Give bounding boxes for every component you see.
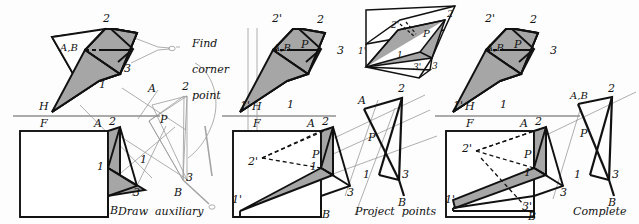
p1-label-H: H — [39, 100, 49, 113]
p3-label-1-front: 1 — [524, 166, 531, 179]
p1-label-1: 1 — [99, 78, 106, 91]
p3-label-3: 3 — [550, 44, 557, 57]
p1-label-A-front: A — [94, 117, 102, 130]
p3-label-2p-front: 2' — [462, 142, 472, 155]
p2-label-3: 3 — [337, 44, 344, 57]
fcp-line-1: Find — [192, 37, 217, 50]
p2-label-A-front: A — [307, 117, 315, 130]
p1-label-2-front: 2 — [109, 115, 116, 128]
caption-draw-auxiliary-view: Draw auxiliary view — [111, 192, 203, 224]
p2-aux-label-2: 2 — [398, 82, 405, 95]
p3-label-B-front: B — [528, 210, 536, 223]
panel-2-front-view — [233, 127, 350, 217]
p3-label-1p: 1' — [453, 99, 463, 112]
p3-label-H: H — [465, 100, 475, 113]
annotation-find-corner-point: Find corner point — [185, 24, 229, 102]
p1-aux-label-A: A — [148, 82, 156, 95]
p2-label-1p-front: 1' — [232, 193, 242, 206]
p3-aux-label-AB: A,B — [570, 90, 588, 101]
p2-label-1: 1 — [287, 98, 294, 111]
p3-label-AB: A,B — [486, 42, 504, 53]
p2-label-H: H — [252, 100, 262, 113]
p3-label-P-front: P — [524, 148, 531, 161]
panel-3-auxiliary-view — [578, 97, 614, 196]
p1-label-1-front: 1 — [97, 160, 104, 173]
p3-label-2p: 2' — [485, 12, 495, 25]
p3-label-A-front: A — [520, 117, 528, 130]
p2-inset-label-P: P — [423, 28, 430, 39]
p2-label-B-front: B — [322, 208, 330, 221]
p1-aux-label-P: P — [160, 113, 167, 126]
figure-canvas: 2 A,B 3 1 H F A 2 1 3 B A 2 P 1 3 B Find… — [0, 0, 639, 224]
p2-inset-label-2: 2 — [447, 8, 453, 19]
p2-label-2-front: 2 — [322, 115, 329, 128]
p2-aux-label-1: 1 — [363, 168, 370, 181]
panel-2-auxiliary-view — [364, 98, 404, 196]
p1-label-3: 3 — [124, 62, 131, 75]
p2-label-1-front: 1 — [310, 160, 317, 173]
p3-label-2: 2 — [530, 13, 537, 26]
technical-drawing-svg — [0, 0, 639, 224]
p3-aux-label-P: P — [580, 127, 587, 140]
p1-label-AB: A,B — [60, 42, 78, 53]
p3-aux-label-2: 2 — [608, 82, 615, 95]
p2-inset-label-3p: 3' — [413, 62, 421, 72]
p1-label-2: 2 — [103, 12, 110, 25]
p3-aux-label-3: 3 — [612, 168, 619, 181]
p2-inset-label-1: 1 — [397, 50, 403, 60]
p3-aux-label-1: 1 — [574, 168, 581, 181]
p3-label-F: F — [466, 117, 474, 130]
p2-aux-label-3: 3 — [402, 168, 409, 181]
cv-line-1: Complete — [573, 205, 626, 218]
p3-label-P: P — [514, 38, 521, 51]
p2-label-2: 2 — [317, 13, 324, 26]
panel-2-pictorial-inset — [366, 6, 455, 78]
p1-label-F: F — [40, 117, 48, 130]
p1-aux-label-3: 3 — [186, 171, 193, 184]
p3-label-1: 1 — [500, 98, 507, 111]
fcp-line-3: point — [192, 89, 221, 102]
p2-inset-label-2p: 2' — [391, 20, 399, 30]
panel-3-construction-lines — [540, 92, 636, 199]
p2-label-2p-front: 2' — [248, 155, 258, 168]
p3-label-2-front: 2 — [535, 115, 542, 128]
caption-complete-views: Complete views — [566, 192, 626, 224]
p2-label-1p: 1' — [240, 99, 250, 112]
pp-line-1: Project points — [355, 205, 436, 218]
panel-3-front-view — [446, 127, 563, 217]
p2-label-AB: A,B — [273, 42, 291, 53]
p2-inset-label-1p: 1' — [358, 46, 366, 56]
p2-label-P: P — [301, 38, 308, 51]
p2-label-2p: 2' — [272, 12, 282, 25]
p3-label-1p-front: 1' — [445, 193, 455, 206]
p2-label-F: F — [253, 117, 261, 130]
fcp-line-2: corner — [192, 63, 229, 76]
p2-aux-label-A: A — [358, 94, 366, 107]
caption-project-points: Project points back to views — [348, 192, 438, 224]
p2-inset-label-3: 3 — [432, 61, 438, 71]
p1-aux-label-1: 1 — [140, 153, 147, 166]
p2-aux-label-P: P — [368, 131, 375, 144]
dav-line-1: Draw auxiliary — [118, 205, 203, 218]
